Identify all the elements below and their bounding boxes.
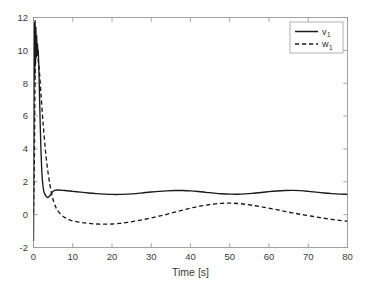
chart-legend[interactable]: v1w1 <box>290 22 343 53</box>
y-tick-label: 4 <box>23 143 28 154</box>
x-tick-label: 60 <box>264 251 275 262</box>
x-tick-label: 30 <box>146 251 157 262</box>
x-tick-label: 20 <box>107 251 118 262</box>
y-tick-label: 10 <box>17 45 28 56</box>
x-tick-label: 10 <box>67 251 78 262</box>
y-tick-label: 0 <box>23 209 28 220</box>
y-tick-label: 2 <box>23 176 28 187</box>
legend-box <box>290 22 343 53</box>
x-tick-label: 40 <box>185 251 196 262</box>
line-chart: 01020304050607080 -2024681012 Time [s] v… <box>0 0 367 289</box>
y-tick-label: 6 <box>23 110 28 121</box>
x-tick-label: 80 <box>342 251 353 262</box>
x-tick-label: 50 <box>224 251 235 262</box>
x-axis-label: Time [s] <box>172 266 209 278</box>
x-axis-title: Time [s] <box>172 266 209 278</box>
y-tick-label: 12 <box>17 12 28 23</box>
x-tick-label: 0 <box>31 251 36 262</box>
x-tick-label: 70 <box>303 251 314 262</box>
figure-container: 01020304050607080 -2024681012 Time [s] v… <box>0 0 367 289</box>
y-tick-label: 8 <box>23 78 28 89</box>
y-tick-label: -2 <box>20 242 28 253</box>
